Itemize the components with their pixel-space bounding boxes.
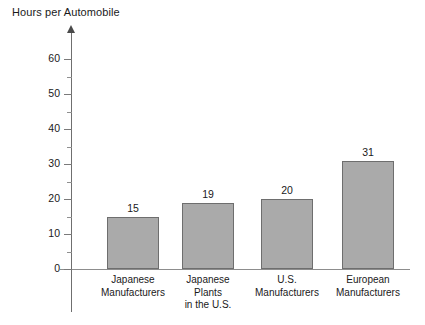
plot-area: 0102030405060 15JapaneseManufacturers19J… (0, 0, 425, 325)
y-tick (64, 269, 72, 270)
y-minor-tick (67, 147, 72, 148)
bar-chart: Hours per Automobile 0102030405060 15Jap… (0, 0, 425, 325)
category-label-line: in the U.S. (162, 299, 254, 312)
bar-value-label: 20 (257, 184, 317, 196)
y-minor-tick (67, 217, 72, 218)
bar-value-label: 19 (178, 188, 238, 200)
y-tick (64, 94, 72, 95)
y-minor-tick (67, 182, 72, 183)
y-tick-label: 50 (20, 88, 60, 99)
x-axis-baseline (60, 269, 410, 270)
bar[interactable] (182, 203, 234, 270)
y-tick (64, 59, 72, 60)
y-tick-label: 40 (20, 123, 60, 134)
y-tick-label: 30 (20, 158, 60, 169)
category-label-line: Manufacturers (241, 287, 333, 300)
y-tick-label: 0 (20, 263, 60, 274)
bar-value-label: 15 (103, 202, 163, 214)
y-tick-label: 60 (20, 53, 60, 64)
category-label-line: Manufacturers (322, 287, 414, 300)
y-minor-tick (67, 112, 72, 113)
category-label-line: U.S. (241, 274, 333, 287)
bar[interactable] (342, 161, 394, 270)
y-tick (64, 164, 72, 165)
category-label: U.S.Manufacturers (241, 274, 333, 299)
category-label-line: European (322, 274, 414, 287)
y-tick (64, 234, 72, 235)
y-axis-arrow-icon (67, 25, 75, 33)
bar[interactable] (261, 199, 313, 269)
bar-value-label: 31 (338, 146, 398, 158)
y-tick-label: 10 (20, 228, 60, 239)
y-tick-label: 20 (20, 193, 60, 204)
y-tick (64, 199, 72, 200)
y-minor-tick (67, 252, 72, 253)
category-label: EuropeanManufacturers (322, 274, 414, 299)
y-tick (64, 129, 72, 130)
bar[interactable] (107, 217, 159, 270)
y-minor-tick (67, 77, 72, 78)
